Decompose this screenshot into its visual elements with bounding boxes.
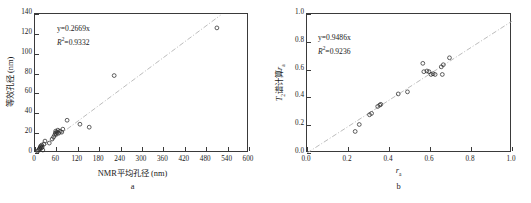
y-tick-label: 140 [21, 9, 32, 16]
y-tick [35, 133, 39, 134]
y-tick-label: 60 [25, 89, 32, 96]
annotation-b: y=0.9486x R2=0.9236 [318, 33, 351, 57]
x-tick [78, 147, 79, 151]
x-tick-label: 300 [136, 156, 147, 163]
y-tick-label: 80 [25, 69, 32, 76]
x-tick-label: 0.0 [302, 156, 311, 163]
y-tick-label: 0.8 [295, 37, 304, 44]
equation-a: y=0.2669x [57, 24, 90, 34]
y-tick [307, 97, 311, 98]
y-tick [35, 14, 39, 15]
y-tick-label: 0.2 [295, 121, 304, 128]
x-tick-label: 420 [178, 156, 189, 163]
y-tick-label: 0.4 [295, 93, 304, 100]
t-subscript-b: 2 [280, 94, 286, 97]
x-tick [348, 147, 349, 151]
data-point [421, 61, 425, 65]
x-tick-label: 1.0 [507, 156, 516, 163]
x-tick-label: 0.2 [343, 156, 352, 163]
y-tick-label: 120 [21, 29, 32, 36]
x-tick-label: 0 [32, 156, 36, 163]
x-tick-labels-a: 060120180240300360420480540600 [34, 154, 248, 166]
x-tick-label: 360 [157, 156, 168, 163]
x-tick [471, 147, 472, 151]
x-tick-label: 180 [93, 156, 104, 163]
panel-caption-b: b [266, 182, 531, 191]
y-tick [35, 54, 39, 55]
y-tick-label: 100 [21, 49, 32, 56]
x-tick-label: 600 [243, 156, 254, 163]
t-symbol-b: T [275, 97, 284, 102]
x-tick-label: 0.4 [384, 156, 393, 163]
r-value-b: =0.9236 [325, 47, 350, 56]
panel-a: 020406080100120140 060120180240300360420… [0, 0, 265, 203]
y-tick-label: 0.6 [295, 65, 304, 72]
x-tick-label: 0.8 [466, 156, 475, 163]
data-point [406, 90, 410, 94]
r-squared-b: R2=0.9236 [318, 43, 351, 57]
x-r-subscript-b: a [399, 171, 401, 177]
r-subscript-b: a [280, 64, 286, 66]
y-tick-label: 20 [25, 129, 32, 136]
x-tick-label: 240 [114, 156, 125, 163]
data-point [112, 74, 116, 78]
data-point [396, 92, 400, 96]
x-tick [389, 147, 390, 151]
figure-container: 020406080100120140 060120180240300360420… [0, 0, 531, 203]
x-tick-label: 120 [71, 156, 82, 163]
data-point [215, 26, 219, 30]
y-tick [307, 125, 311, 126]
y-tick-label: 40 [25, 109, 32, 116]
x-tick [121, 147, 122, 151]
y-tick [35, 113, 39, 114]
data-point [448, 56, 452, 60]
x-tick [185, 147, 186, 151]
y-axis-title-mid-b: 谱计算 [275, 70, 284, 94]
panel-b: 0.00.20.40.60.81.0 0.00.20.40.60.81.0 T2… [266, 0, 531, 203]
y-tick [307, 14, 311, 15]
x-tick [163, 147, 164, 151]
panel-caption-a: a [0, 182, 265, 191]
x-tick [142, 147, 143, 151]
x-tick [99, 147, 100, 151]
x-axis-title-a: NMR平均孔径 (nm) [0, 166, 265, 178]
x-tick [512, 147, 513, 151]
y-tick [35, 93, 39, 94]
annotation-a: y=0.2669x R2=0.9332 [57, 24, 90, 48]
x-tick [206, 147, 207, 151]
y-tick [35, 74, 39, 75]
data-point [440, 73, 444, 77]
x-tick [35, 147, 36, 151]
data-point [47, 141, 51, 145]
data-point [78, 122, 82, 126]
data-point [87, 125, 91, 129]
x-tick [56, 147, 57, 151]
r-squared-a: R2=0.9332 [57, 34, 90, 48]
data-point [357, 123, 361, 127]
x-tick [307, 147, 308, 151]
y-tick [307, 70, 311, 71]
x-tick [228, 147, 229, 151]
x-tick [430, 147, 431, 151]
y-tick-label: 1.0 [295, 9, 304, 16]
x-tick-label: 60 [52, 156, 59, 163]
y-tick [307, 42, 311, 43]
x-tick-label: 0.6 [425, 156, 434, 163]
x-tick-labels-b: 0.00.20.40.60.81.0 [306, 154, 511, 166]
r-symbol-b: r [275, 67, 284, 70]
r-value-a: =0.9332 [64, 38, 89, 47]
x-tick-label: 480 [200, 156, 211, 163]
y-axis-title-a: 等效孔径 (nm) [3, 37, 15, 127]
x-axis-title-b: ra [266, 166, 531, 177]
y-tick [35, 34, 39, 35]
equation-b: y=0.9486x [318, 33, 351, 43]
x-tick [249, 147, 250, 151]
y-axis-title-b: T2谱计算ra [272, 38, 286, 128]
x-tick-label: 540 [221, 156, 232, 163]
data-point [65, 118, 69, 122]
data-point [353, 130, 357, 134]
